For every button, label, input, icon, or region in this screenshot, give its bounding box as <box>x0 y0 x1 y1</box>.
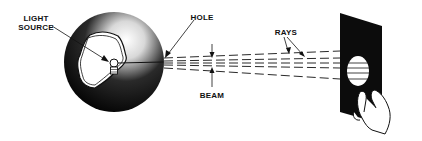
hand-icon <box>353 90 390 134</box>
hole-label: HOLE <box>190 13 214 22</box>
rays-label: RAYS <box>272 28 300 37</box>
rays-leaders <box>284 37 305 57</box>
beam-label: BEAM <box>197 91 227 100</box>
hole-leader <box>165 20 194 58</box>
beam-rays <box>164 51 340 79</box>
light-source-label: LIGHT SOURCE <box>13 14 59 32</box>
